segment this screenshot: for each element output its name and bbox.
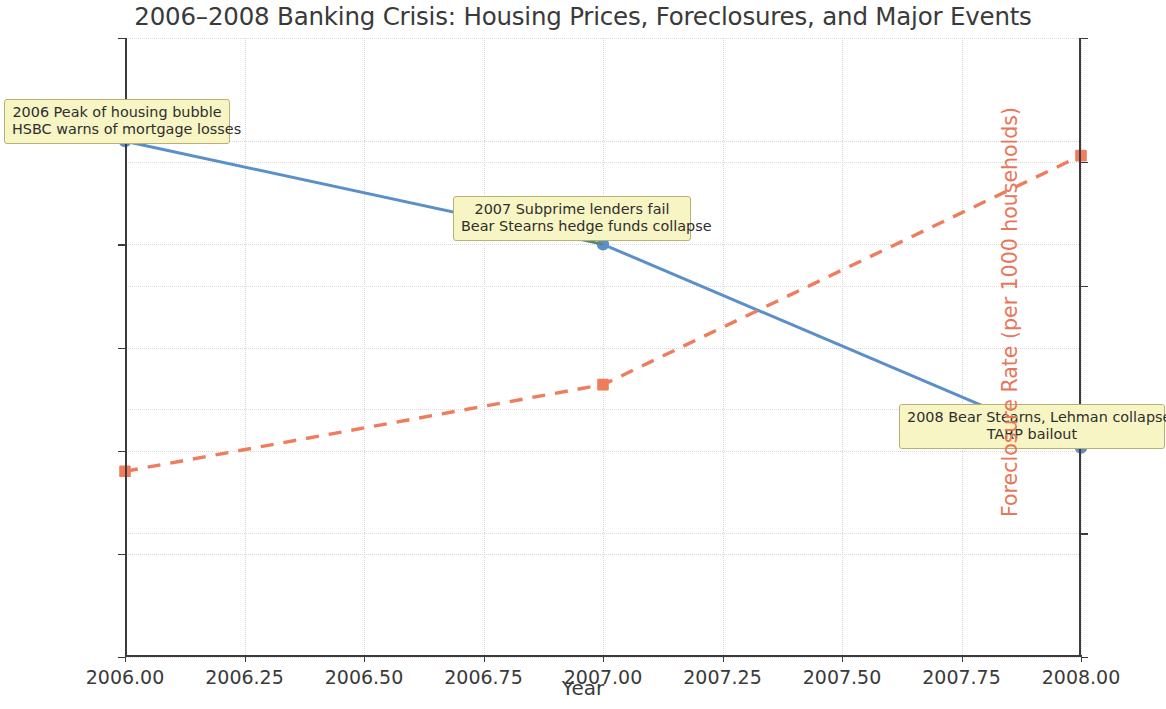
axis-spine-right [1079, 38, 1081, 657]
annotation-text-line: 2006 Peak of housing bubble [12, 104, 222, 121]
gridline-vertical [1081, 38, 1082, 657]
y-left-tick [118, 38, 125, 39]
y-right-tick [1081, 162, 1088, 163]
x-tick [723, 655, 724, 662]
data-point-marker [597, 379, 609, 391]
x-tick [125, 655, 126, 662]
y-right-tick [1081, 38, 1088, 39]
series-layer [125, 38, 1081, 657]
y-right-tick [1081, 657, 1088, 658]
y-left-tick [118, 244, 125, 245]
y-left-tick [118, 348, 125, 349]
annotation-2008: 2008 Bear Stearns, Lehman collapseTARP b… [899, 404, 1165, 449]
plot-area: 2006.002006.252006.502006.752007.002007.… [125, 38, 1081, 657]
data-point-marker [1075, 150, 1087, 162]
chart-figure: 2006–2008 Banking Crisis: Housing Prices… [0, 0, 1166, 709]
annotation-2007: 2007 Subprime lenders failBear Stearns h… [453, 196, 691, 241]
annotation-text-line: 2008 Bear Stearns, Lehman collapse [907, 409, 1157, 426]
annotation-text-line: TARP bailout [907, 426, 1157, 443]
annotation-text-line: HSBC warns of mortgage losses [12, 121, 222, 138]
annotation-2006: 2006 Peak of housing bubbleHSBC warns of… [4, 99, 230, 144]
y-right-tick [1081, 286, 1088, 287]
series-line [125, 141, 1081, 447]
x-tick [484, 655, 485, 662]
annotation-text-line: 2007 Subprime lenders fail [461, 201, 683, 218]
x-tick [245, 655, 246, 662]
x-axis-label: Year [0, 676, 1166, 700]
x-tick [603, 655, 604, 662]
annotation-text-line: Bear Stearns hedge funds collapse [461, 218, 683, 235]
chart-title: 2006–2008 Banking Crisis: Housing Prices… [0, 2, 1166, 31]
y-left-tick [118, 657, 125, 658]
y-left-tick [118, 554, 125, 555]
y-left-tick [118, 451, 125, 452]
y-axis-right-label: Foreclosure Rate (per 1000 households) [998, 2, 1022, 622]
y-right-tick [1081, 533, 1088, 534]
x-tick [962, 655, 963, 662]
x-tick [364, 655, 365, 662]
x-tick [842, 655, 843, 662]
